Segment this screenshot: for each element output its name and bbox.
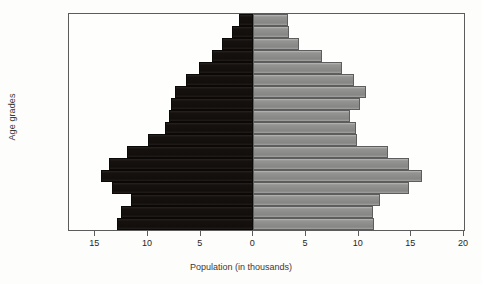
bar-left-10–14 bbox=[131, 194, 253, 206]
bar-right-40–44 bbox=[253, 122, 355, 134]
bar-right-60–64 bbox=[253, 74, 354, 86]
bar-right-75–79 bbox=[253, 38, 298, 50]
bar-left-75–79 bbox=[222, 38, 254, 50]
bar-right-20–24 bbox=[253, 170, 422, 182]
pyramid-row: 85+ bbox=[69, 14, 464, 26]
bar-left-45–49 bbox=[169, 110, 253, 122]
pyramid-row: 70–74 bbox=[69, 50, 464, 62]
bar-right-55–59 bbox=[253, 86, 366, 98]
bar-right-65–69 bbox=[253, 62, 341, 74]
x-tick-label: 10 bbox=[338, 238, 378, 248]
x-tick-label: 0 bbox=[232, 238, 272, 248]
pyramid-row: 80–84 bbox=[69, 26, 464, 38]
bar-right-50–54 bbox=[253, 98, 359, 110]
pyramid-row: 30–34 bbox=[69, 146, 464, 158]
bar-left-40–44 bbox=[165, 122, 253, 134]
bar-left-80–84 bbox=[232, 26, 253, 38]
x-axis-ticks: 1510505101520 bbox=[68, 231, 465, 261]
bar-right-0–4 bbox=[253, 218, 374, 230]
pyramid-row: 50–54 bbox=[69, 98, 464, 110]
x-tick bbox=[94, 231, 95, 236]
bar-right-25–29 bbox=[253, 158, 409, 170]
x-tick-label: 15 bbox=[74, 238, 114, 248]
x-tick-label: 20 bbox=[443, 238, 482, 248]
bar-left-30–34 bbox=[127, 146, 253, 158]
bar-right-45–49 bbox=[253, 110, 350, 122]
pyramid-row: 60–64 bbox=[69, 74, 464, 86]
bar-left-35–39 bbox=[148, 134, 253, 146]
x-tick-label: 5 bbox=[180, 238, 220, 248]
x-tick-label: 5 bbox=[285, 238, 325, 248]
pyramid-row: 45–49 bbox=[69, 110, 464, 122]
bar-right-15–19 bbox=[253, 182, 409, 194]
bar-right-35–39 bbox=[253, 134, 356, 146]
y-axis-label: Age grades bbox=[7, 72, 17, 162]
pyramid-row: 20–24 bbox=[69, 170, 464, 182]
x-tick bbox=[147, 231, 148, 236]
bar-right-85+ bbox=[253, 14, 288, 26]
bar-left-60–64 bbox=[186, 74, 253, 86]
bar-left-70–74 bbox=[212, 50, 253, 62]
x-tick bbox=[463, 231, 464, 236]
x-tick-label: 15 bbox=[390, 238, 430, 248]
bar-left-85+ bbox=[239, 14, 254, 26]
bar-left-5–9 bbox=[121, 206, 254, 218]
bar-left-20–24 bbox=[101, 170, 254, 182]
pyramid-row: 35–39 bbox=[69, 134, 464, 146]
x-tick bbox=[252, 231, 253, 236]
pyramid-row: 25–29 bbox=[69, 158, 464, 170]
bar-left-0–4 bbox=[117, 218, 253, 230]
pyramid-row: 40–44 bbox=[69, 122, 464, 134]
x-tick bbox=[305, 231, 306, 236]
pyramid-row: 75–79 bbox=[69, 38, 464, 50]
bar-right-80–84 bbox=[253, 26, 289, 38]
pyramid-row: 55–59 bbox=[69, 86, 464, 98]
bar-right-10–14 bbox=[253, 194, 379, 206]
bar-left-55–59 bbox=[175, 86, 253, 98]
bar-right-70–74 bbox=[253, 50, 321, 62]
pyramid-row: 10–14 bbox=[69, 194, 464, 206]
population-pyramid-chart: Age grades 0–45–910–1415–1920–2425–2930–… bbox=[0, 0, 482, 284]
bar-right-5–9 bbox=[253, 206, 373, 218]
x-tick bbox=[358, 231, 359, 236]
x-tick-label: 10 bbox=[127, 238, 167, 248]
pyramid-row: 15–19 bbox=[69, 182, 464, 194]
x-tick bbox=[200, 231, 201, 236]
pyramid-row: 65–69 bbox=[69, 62, 464, 74]
plot-area: 0–45–910–1415–1920–2425–2930–3435–3940–4… bbox=[68, 13, 465, 231]
bar-left-25–29 bbox=[109, 158, 253, 170]
bar-left-50–54 bbox=[171, 98, 253, 110]
bar-left-15–19 bbox=[112, 182, 253, 194]
bar-right-30–34 bbox=[253, 146, 388, 158]
pyramid-row: 0–4 bbox=[69, 218, 464, 230]
x-tick bbox=[410, 231, 411, 236]
pyramid-row: 5–9 bbox=[69, 206, 464, 218]
bar-left-65–69 bbox=[199, 62, 254, 74]
x-axis-label: Population (in thousands) bbox=[0, 262, 482, 272]
